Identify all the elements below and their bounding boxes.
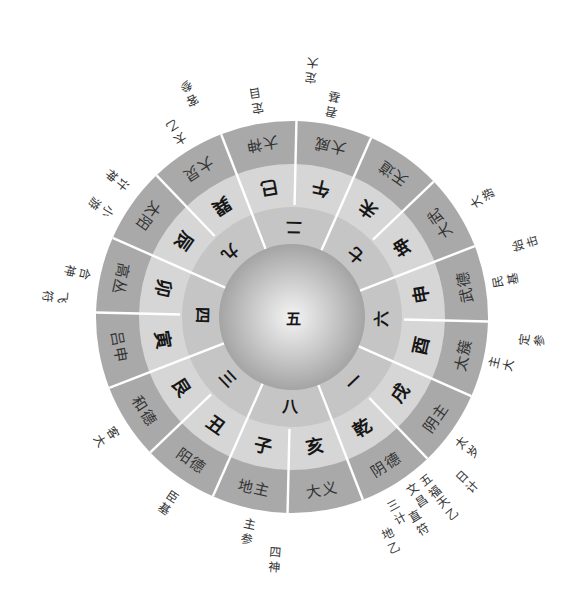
palace-label: 午 xyxy=(310,177,331,198)
palace-label: 申 xyxy=(412,284,433,305)
star-label: 飞符 xyxy=(40,288,71,303)
palace-label: 亥 xyxy=(304,437,325,458)
taiyi-chart: 五 大威 天道 大武 武德 太簇 阴主 阴德 大义 地主 阳德 和德 吕申 高丛… xyxy=(0,0,586,614)
star-label: 四神 xyxy=(266,545,280,576)
palace-number: 八 xyxy=(282,399,298,415)
center-number: 五 xyxy=(286,312,301,327)
palace-number: 四 xyxy=(194,307,210,323)
star-label: 定大 xyxy=(306,54,321,85)
palace-label: 酉 xyxy=(410,335,431,356)
palace-label: 巳 xyxy=(259,177,280,198)
palace-label: 卯 xyxy=(152,278,173,299)
palace-label: 子 xyxy=(253,435,274,456)
palace-number: 六 xyxy=(374,311,390,327)
god-label: 吕申 xyxy=(108,330,128,364)
chart-rings xyxy=(0,0,586,614)
palace-number: 二 xyxy=(286,219,302,235)
star-label: 定参 xyxy=(517,334,548,349)
palace-label: 寅 xyxy=(152,329,173,350)
god-label: 大神 xyxy=(245,133,279,153)
